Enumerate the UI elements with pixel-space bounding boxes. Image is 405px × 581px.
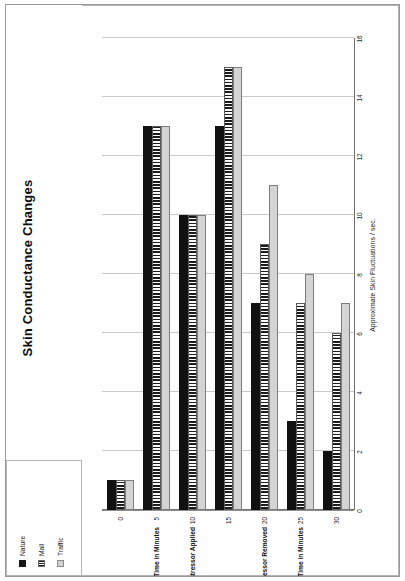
value-tick-label: 16: [356, 35, 363, 42]
category-tick-label: 30: [333, 517, 340, 524]
value-axis-ticks: 0246810121416: [356, 39, 368, 511]
bar-traffic-20: [269, 186, 278, 511]
bar-traffic-0: [125, 481, 134, 511]
bar-mall-15: [224, 68, 233, 511]
value-tick-label: 8: [356, 273, 363, 277]
value-tick-label: 14: [356, 94, 363, 101]
legend-item-nature: Nature: [13, 467, 32, 567]
bar-traffic-15: [233, 68, 242, 511]
bar-nature-15: [215, 127, 224, 511]
value-tick-label: 0: [356, 509, 363, 513]
category-tick-label: 20: [261, 517, 268, 524]
legend-swatch-mall-icon: [38, 560, 45, 567]
value-tick-label: 10: [356, 212, 363, 219]
value-axis-title: Approximate Skin Fluctuations / sec.: [369, 39, 376, 511]
category-axis-line: [354, 38, 355, 510]
legend-item-traffic: Traffic: [51, 467, 70, 567]
chart-legend: Nature Mall Traffic: [6, 460, 82, 576]
plot-frame: 051015202530Time in MinutesStressor Appl…: [82, 5, 399, 576]
bar-nature-25: [287, 422, 296, 511]
bar-mall-20: [260, 245, 269, 511]
bar-mall-0: [116, 481, 125, 511]
bar-nature-5: [143, 127, 152, 511]
legend-label-nature: Nature: [19, 536, 26, 556]
bar-nature-20: [251, 304, 260, 511]
bar-nature-0: [107, 481, 116, 511]
category-tick-label: 15: [225, 517, 232, 524]
legend-item-mall: Mall: [32, 467, 51, 567]
legend-swatch-nature-icon: [19, 560, 26, 567]
bar-nature-10: [179, 215, 188, 510]
legend-label-traffic: Traffic: [57, 537, 64, 556]
bar-traffic-30: [341, 304, 350, 511]
category-tick-label: 25: [297, 517, 304, 524]
category-axis-labels: 051015202530Time in MinutesStressor Appl…: [102, 513, 354, 575]
bar-mall-10: [188, 215, 197, 510]
category-annotation: Stressor Removed: [261, 527, 268, 576]
landscape-chart-canvas: Nature Mall Traffic Skin Conductance Cha…: [6, 5, 399, 576]
category-annotation: Stressor Applied: [189, 527, 196, 576]
chart-page: Nature Mall Traffic Skin Conductance Cha…: [0, 0, 405, 581]
bar-traffic-10: [197, 215, 206, 510]
bar-mall-25: [296, 304, 305, 511]
legend-label-mall: Mall: [38, 544, 45, 557]
rotated-chart-viewport: Nature Mall Traffic Skin Conductance Cha…: [6, 5, 399, 576]
category-tick-label: 0: [117, 517, 124, 521]
value-tick-label: 2: [356, 450, 363, 454]
category-annotation: Time in Minutes: [153, 527, 160, 576]
bar-traffic-5: [161, 127, 170, 511]
gridline: [102, 37, 354, 38]
category-annotation: Time in Minutes: [297, 527, 304, 576]
chart-title: Skin Conductance Changes: [20, 78, 35, 458]
value-tick-label: 6: [356, 332, 363, 336]
plot-area: [102, 38, 354, 511]
value-tick-label: 12: [356, 153, 363, 160]
legend-swatch-traffic-icon: [57, 560, 64, 567]
category-tick-label: 5: [153, 517, 160, 521]
bar-mall-30: [332, 333, 341, 510]
category-tick-label: 10: [189, 517, 196, 524]
bar-mall-5: [152, 127, 161, 511]
value-tick-label: 4: [356, 391, 363, 395]
bar-traffic-25: [305, 274, 314, 510]
bar-nature-30: [323, 451, 332, 510]
